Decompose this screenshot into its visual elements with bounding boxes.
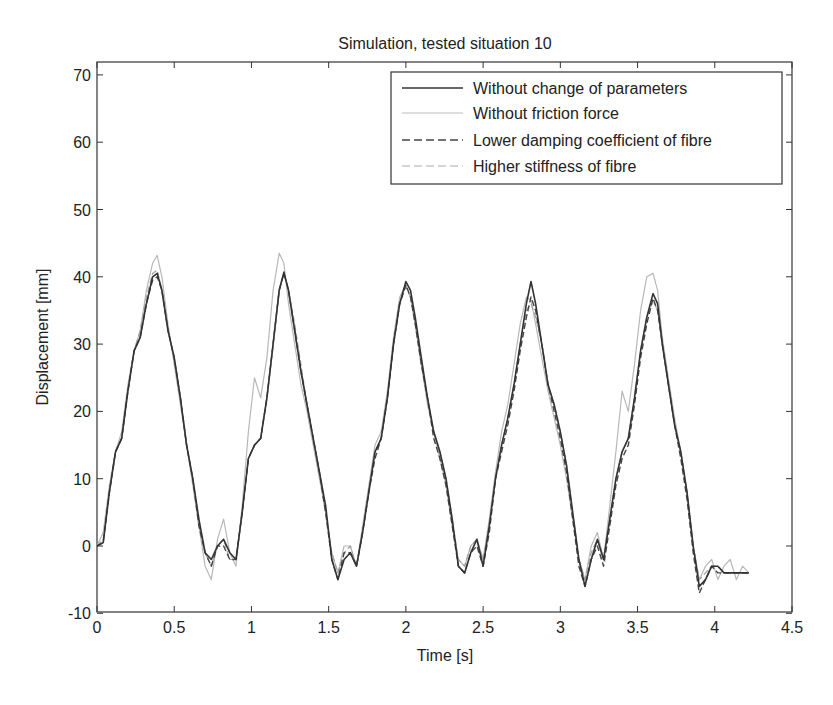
legend-label: Lower damping coefficient of fibre — [473, 132, 712, 149]
y-tick-label: 40 — [73, 269, 91, 286]
series-line — [97, 272, 749, 586]
y-tick-label: 50 — [73, 202, 91, 219]
series-line — [97, 270, 749, 579]
legend-label: Without change of parameters — [473, 80, 687, 97]
x-tick-label: 3.5 — [626, 619, 648, 636]
x-tick-label: 0 — [93, 619, 102, 636]
x-tick-label: 2 — [401, 619, 410, 636]
x-tick-label: 4.5 — [781, 619, 803, 636]
x-tick-label: 3 — [556, 619, 565, 636]
chart-title: Simulation, tested situation 10 — [338, 35, 552, 52]
y-tick-label: -10 — [68, 605, 91, 622]
y-tick-label: 10 — [73, 471, 91, 488]
y-tick-label: 20 — [73, 403, 91, 420]
legend: Without change of parameters Without fri… — [391, 72, 782, 184]
y-tick-label: 60 — [73, 134, 91, 151]
x-tick-label: 2.5 — [472, 619, 494, 636]
y-tick-label: 0 — [82, 538, 91, 555]
y-tick-label: 70 — [73, 67, 91, 84]
legend-label: Without friction force — [473, 105, 619, 122]
y-tick-label: 30 — [73, 336, 91, 353]
series-line — [97, 273, 749, 593]
x-tick-label: 1.5 — [318, 619, 340, 636]
x-tick-label: 0.5 — [163, 619, 185, 636]
line-chart: Simulation, tested situation 10 00.511.5… — [0, 0, 833, 705]
x-tick-label: 4 — [710, 619, 719, 636]
x-tick-label: 1 — [247, 619, 256, 636]
series-group — [97, 253, 749, 593]
x-axis-label: Time [s] — [417, 647, 473, 664]
y-axis-label: Displacement [mm] — [34, 269, 51, 406]
legend-label: Higher stiffness of fibre — [473, 158, 636, 175]
